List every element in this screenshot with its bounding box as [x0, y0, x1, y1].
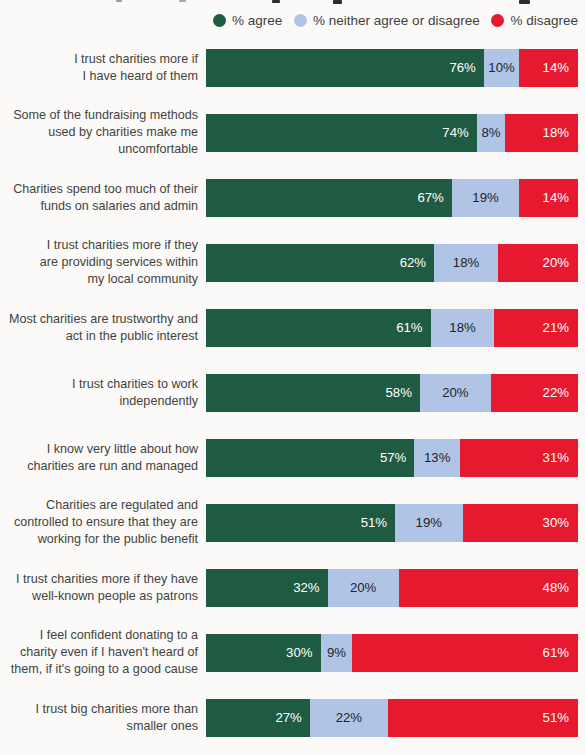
bar-segment-disagree: 20%: [498, 244, 578, 282]
cropped-title-fragment: [179, 0, 186, 2]
bar-segment-neither: 9%: [321, 634, 353, 672]
chart-row: I trust charities more ifI have heard of…: [0, 35, 585, 100]
category-label-line: I feel confident donating to a: [0, 627, 198, 644]
bar-segment-neither: 19%: [452, 179, 519, 217]
bar-value-label: 9%: [327, 645, 346, 660]
bar-segment-disagree: 48%: [399, 569, 578, 607]
chart-row: Charities are regulated andcontrolled to…: [0, 490, 585, 555]
bar-value-label: 20%: [442, 385, 468, 400]
category-label-line: I have heard of them: [0, 68, 198, 85]
category-label-line: I trust charities to work: [0, 376, 198, 393]
bar-value-label: 14%: [543, 190, 569, 205]
legend-item-disagree: % disagree: [491, 13, 578, 28]
bar-value-label: 18%: [449, 320, 475, 335]
legend-item-agree: % agree: [213, 13, 282, 28]
bar-value-label: 76%: [449, 60, 475, 75]
bar-segment-agree: 74%: [206, 114, 477, 152]
category-label-line: Charities spend too much of their: [0, 181, 198, 198]
chart-row: I feel confident donating to acharity ev…: [0, 620, 585, 685]
bar-segment-agree: 58%: [206, 374, 420, 412]
bar-value-label: 62%: [400, 255, 426, 270]
bar-segment-disagree: 21%: [494, 309, 578, 347]
bar-segment-neither: 20%: [420, 374, 491, 412]
category-label-line: working for the public benefit: [0, 531, 198, 548]
bar-segment-disagree: 51%: [388, 699, 578, 737]
category-label-line: uncomfortable: [0, 141, 198, 158]
category-label-line: Charities are regulated and: [0, 497, 198, 514]
chart-row: I know very little about howcharities ar…: [0, 425, 585, 490]
bar-segment-neither: 20%: [328, 569, 399, 607]
category-label-line: act in the public interest: [0, 328, 198, 345]
chart-row: I trust charities more if theyare provid…: [0, 230, 585, 295]
bar-segment-neither: 19%: [395, 504, 462, 542]
bar-value-label: 18%: [453, 255, 479, 270]
bar-segment-neither: 8%: [477, 114, 505, 152]
bar-value-label: 61%: [396, 320, 422, 335]
stacked-bar: 27%22%51%: [206, 699, 578, 737]
bar-segment-agree: 57%: [206, 439, 414, 477]
legend-label: % agree: [232, 13, 282, 28]
bar-segment-agree: 76%: [206, 49, 484, 87]
legend-label: % neither agree or disagree: [313, 13, 480, 28]
bar-segment-disagree: 61%: [352, 634, 578, 672]
category-label-line: are providing services within: [0, 254, 198, 271]
bar-segment-neither: 22%: [310, 699, 388, 737]
stacked-bar: 62%18%20%: [206, 244, 578, 282]
category-label: I trust big charities more thansmaller o…: [0, 701, 206, 735]
bar-value-label: 19%: [472, 190, 498, 205]
bar-value-label: 10%: [488, 60, 514, 75]
stacked-bar: 51%19%30%: [206, 504, 578, 542]
stacked-bar: 61%18%21%: [206, 309, 578, 347]
category-label-line: charities are run and managed: [0, 458, 198, 475]
stacked-bar: 74%8%18%: [206, 114, 578, 152]
category-label-line: controlled to ensure that they are: [0, 514, 198, 531]
stacked-bar: 32%20%48%: [206, 569, 578, 607]
chart-rows: I trust charities more ifI have heard of…: [0, 35, 585, 750]
bar-segment-neither: 13%: [414, 439, 460, 477]
chart-row: Some of the fundraising methodsused by c…: [0, 100, 585, 165]
bar-value-label: 8%: [481, 125, 500, 140]
bar-segment-agree: 62%: [206, 244, 434, 282]
bar-value-label: 27%: [275, 710, 301, 725]
category-label-line: I know very little about how: [0, 441, 198, 458]
legend-item-neither: % neither agree or disagree: [294, 13, 480, 28]
bar-segment-agree: 30%: [206, 634, 321, 672]
chart-row: I trust charities more if they havewell-…: [0, 555, 585, 620]
legend-label: % disagree: [510, 13, 578, 28]
category-label-line: charity even if I haven't heard of: [0, 644, 198, 661]
category-label-line: I trust charities more if they: [0, 237, 198, 254]
category-label-line: funds on salaries and admin: [0, 198, 198, 215]
bar-segment-agree: 32%: [206, 569, 328, 607]
bar-segment-disagree: 14%: [519, 49, 578, 87]
bar-value-label: 19%: [416, 515, 442, 530]
category-label: I know very little about howcharities ar…: [0, 441, 206, 475]
scanned-chart-page: % agree % neither agree or disagree % di…: [0, 0, 585, 755]
cropped-title-fragment: [272, 0, 280, 3]
chart-row: I trust big charities more thansmaller o…: [0, 685, 585, 750]
category-label-line: Some of the fundraising methods: [0, 107, 198, 124]
agree-legend-dot-icon: [213, 14, 226, 27]
bar-value-label: 67%: [417, 190, 443, 205]
disagree-legend-dot-icon: [491, 14, 504, 27]
category-label-line: I trust charities more if: [0, 51, 198, 68]
bar-segment-disagree: 30%: [463, 504, 579, 542]
bar-value-label: 20%: [350, 580, 376, 595]
category-label-line: used by charities make me: [0, 124, 198, 141]
cropped-title-fragment: [116, 0, 122, 2]
bar-segment-agree: 27%: [206, 699, 310, 737]
chart-row: Most charities are trustworthy andact in…: [0, 295, 585, 360]
bar-segment-disagree: 22%: [491, 374, 578, 412]
stacked-bar: 30%9%61%: [206, 634, 578, 672]
category-label-line: them, if it's going to a good cause: [0, 661, 198, 678]
category-label-line: well-known people as patrons: [0, 588, 198, 605]
category-label: I trust charities to workindependently: [0, 376, 206, 410]
cropped-title-fragment: [333, 0, 342, 4]
bar-value-label: 57%: [380, 450, 406, 465]
stacked-bar: 58%20%22%: [206, 374, 578, 412]
bar-value-label: 30%: [543, 515, 569, 530]
bar-segment-neither: 18%: [434, 244, 498, 282]
bar-value-label: 20%: [543, 255, 569, 270]
chart-row: I trust charities to workindependently58…: [0, 360, 585, 425]
bar-value-label: 58%: [386, 385, 412, 400]
stacked-bar: 57%13%31%: [206, 439, 578, 477]
